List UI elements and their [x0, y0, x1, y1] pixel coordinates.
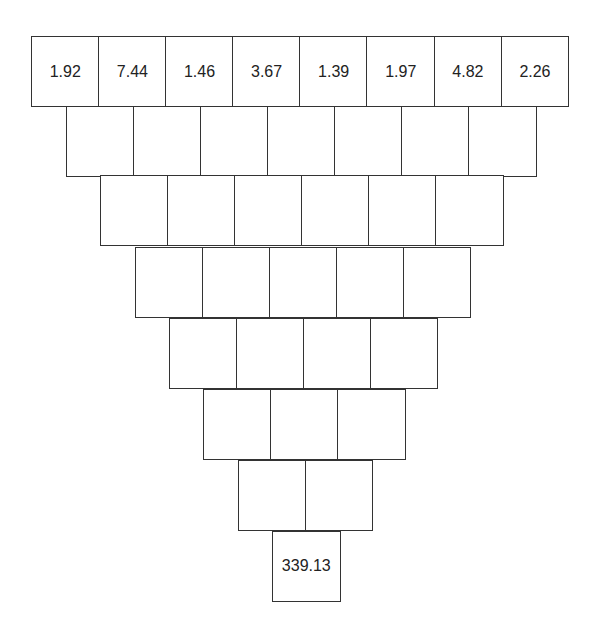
pyramid-cell-empty: [200, 106, 269, 177]
pyramid-row-7: [238, 460, 374, 531]
pyramid-cell-empty: [202, 247, 271, 318]
pyramid-cell-empty: [303, 318, 372, 389]
pyramid-cell-empty: [167, 175, 236, 246]
pyramid-result-cell: 339.13: [272, 531, 341, 602]
pyramid-cell-empty: [435, 175, 504, 246]
pyramid-cell-empty: [301, 175, 370, 246]
pyramid-cell-empty: [334, 106, 403, 177]
pyramid-cell-empty: [238, 460, 307, 531]
pyramid-cell-empty: [169, 318, 238, 389]
pyramid-cell-empty: [305, 460, 374, 531]
pyramid-row-2: [66, 106, 537, 177]
pyramid-cell-empty: [133, 106, 202, 177]
pyramid-cell: 1.46: [165, 36, 234, 107]
pyramid-cell-empty: [468, 106, 537, 177]
pyramid-cell: 7.44: [98, 36, 167, 107]
pyramid-cell-empty: [234, 175, 303, 246]
pyramid-cell-empty: [270, 389, 339, 460]
number-pyramid: 1.92 7.44 1.46 3.67 1.39 1.97 4.82 2.26: [0, 0, 614, 633]
pyramid-cell: 1.97: [366, 36, 435, 107]
pyramid-row-5: [169, 318, 439, 389]
pyramid-cell-empty: [100, 175, 169, 246]
pyramid-cell-empty: [135, 247, 204, 318]
pyramid-cell-empty: [403, 247, 472, 318]
pyramid-cell: 4.82: [434, 36, 503, 107]
pyramid-cell-empty: [336, 247, 405, 318]
pyramid-cell-empty: [267, 106, 336, 177]
pyramid-row-6: [203, 389, 406, 460]
pyramid-cell: 3.67: [232, 36, 301, 107]
pyramid-cell-empty: [66, 106, 135, 177]
pyramid-row-8: 339.13: [272, 531, 341, 602]
pyramid-row-4: [135, 247, 472, 318]
pyramid-cell-empty: [203, 389, 272, 460]
pyramid-row-1: 1.92 7.44 1.46 3.67 1.39 1.97 4.82 2.26: [31, 36, 569, 107]
pyramid-cell: 1.92: [31, 36, 100, 107]
pyramid-cell-empty: [401, 106, 470, 177]
pyramid-cell: 1.39: [299, 36, 368, 107]
pyramid-row-3: [100, 175, 504, 246]
pyramid-cell-empty: [337, 389, 406, 460]
pyramid-cell-empty: [236, 318, 305, 389]
pyramid-cell-empty: [368, 175, 437, 246]
pyramid-cell: 2.26: [501, 36, 570, 107]
pyramid-cell-empty: [269, 247, 338, 318]
pyramid-cell-empty: [370, 318, 439, 389]
